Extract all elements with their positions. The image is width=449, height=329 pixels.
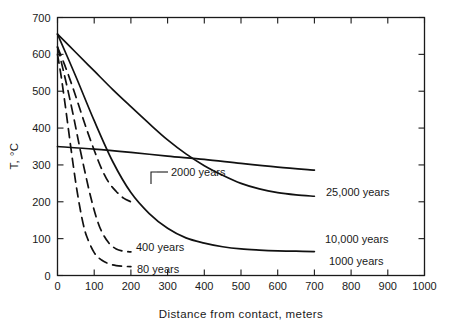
curve-label-2000-years: 2000 years	[171, 166, 226, 178]
curve-label-25000-years: 25,000 years	[326, 186, 390, 198]
x-tick-label: 800	[342, 280, 360, 292]
y-tick-label: 400	[32, 122, 50, 134]
x-tick-label: 1000	[412, 280, 436, 292]
x-tick-label: 600	[269, 280, 287, 292]
y-tick-label: 600	[32, 48, 50, 60]
x-tick-label: 900	[379, 280, 397, 292]
x-tick-label: 0	[54, 280, 60, 292]
x-axis-title: Distance from contact, meters	[159, 308, 323, 320]
y-tick-label: 100	[32, 233, 50, 245]
y-tick-label: 200	[32, 196, 50, 208]
x-tick-label: 200	[122, 280, 140, 292]
y-tick-label: 700	[32, 12, 50, 24]
x-tick-label: 100	[85, 280, 103, 292]
y-axis-title: T, °C	[8, 142, 20, 169]
y-tick-label: 300	[32, 159, 50, 171]
curve-label-10000-years: 10,000 years	[325, 233, 389, 245]
chart-figure: 01002003004005006007008009001000 0100200…	[0, 0, 449, 329]
y-tick-label: 0	[44, 270, 50, 282]
curve-label-80-years: 80 years	[137, 263, 180, 275]
x-tick-label: 300	[158, 280, 176, 292]
curve-label-400-years: 400 years	[136, 241, 185, 253]
x-tick-label: 500	[232, 280, 250, 292]
temperature-distance-plot: 01002003004005006007008009001000 0100200…	[0, 0, 449, 329]
curve-label-1000-years: 1000 years	[329, 255, 384, 267]
x-tick-label: 400	[195, 280, 213, 292]
y-tick-label: 500	[32, 85, 50, 97]
x-tick-label: 700	[305, 280, 323, 292]
